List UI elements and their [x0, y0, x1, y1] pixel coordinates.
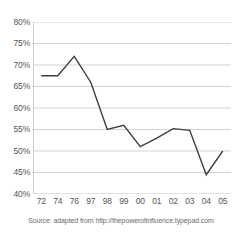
- x-axis-tick-labels: 727476979899000102030405: [33, 196, 231, 208]
- y-axis-label: 65%: [4, 82, 30, 91]
- data-series-line: [41, 56, 223, 174]
- plot-area: [33, 22, 231, 194]
- y-axis-label: 80%: [4, 18, 30, 27]
- y-axis-label: 75%: [4, 39, 30, 48]
- chart-canvas: [33, 22, 231, 194]
- y-axis-label: 70%: [4, 61, 30, 70]
- gridlines: [33, 22, 231, 194]
- y-axis-label: 45%: [4, 168, 30, 177]
- y-axis-label: 55%: [4, 125, 30, 134]
- y-axis-label: 50%: [4, 147, 30, 156]
- y-axis-label: 40%: [4, 190, 30, 199]
- y-axis-label: 60%: [4, 104, 30, 113]
- x-axis-label: 05: [213, 196, 233, 206]
- y-axis-tick-labels: 40%45%50%55%60%65%70%75%80%: [0, 0, 30, 239]
- line-chart: 40%45%50%55%60%65%70%75%80% 727476979899…: [0, 0, 242, 239]
- source-caption: Source: adapted from http://thepowerofin…: [0, 216, 242, 225]
